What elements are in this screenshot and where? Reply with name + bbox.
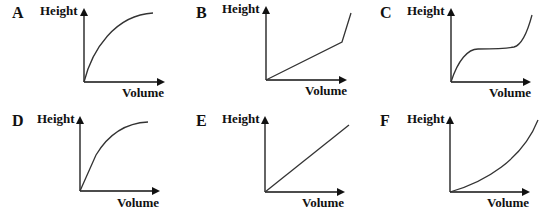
panel-f: F Height Volume [380, 111, 538, 210]
x-axis-label: Volume [487, 195, 529, 210]
panel-b: B Height Volume [196, 1, 351, 98]
panel-a: A Height Volume [12, 3, 164, 100]
y-axis-label: Height [407, 3, 445, 18]
panel-letter: F [380, 112, 390, 129]
graphs-figure: A Height Volume B Height Volume C Height… [0, 0, 544, 214]
graph-curve [84, 13, 153, 82]
x-axis-label: Volume [489, 85, 531, 100]
y-axis-label: Height [222, 111, 260, 126]
y-axis-label: Height [407, 111, 445, 126]
x-axis-label: Volume [302, 195, 344, 210]
graph-curve [451, 15, 532, 82]
x-axis-label: Volume [122, 85, 164, 100]
panel-letter: A [12, 4, 24, 21]
y-axis-label: Height [37, 111, 75, 126]
y-axis-label: Height [40, 3, 78, 18]
panel-letter: B [196, 4, 207, 21]
y-axis-label: Height [222, 1, 260, 16]
panel-d: D Height Volume [12, 111, 159, 210]
x-axis-label: Volume [305, 83, 347, 98]
graph-curve [80, 122, 148, 191]
panel-letter: D [12, 112, 24, 129]
graph-curve [265, 125, 349, 192]
graph-curve [450, 120, 538, 192]
panel-letter: E [196, 112, 207, 129]
graph-curve [266, 13, 351, 80]
x-axis-label: Volume [117, 195, 159, 210]
panel-letter: C [380, 4, 392, 21]
panel-c: C Height Volume [380, 3, 532, 100]
panel-e: E Height Volume [196, 111, 349, 210]
